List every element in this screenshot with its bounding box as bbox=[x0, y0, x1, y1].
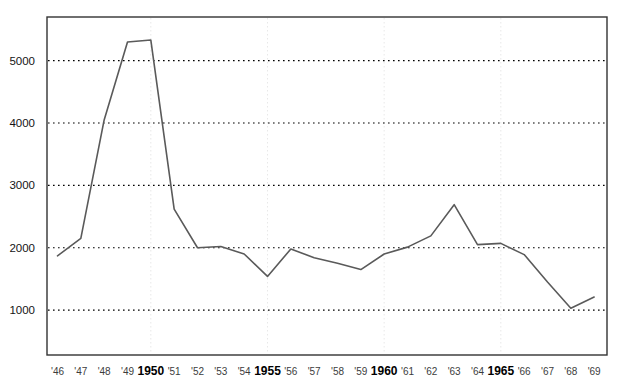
x-tick-1951: '51 bbox=[168, 366, 181, 377]
plot-background bbox=[47, 17, 607, 355]
x-tick-1963: '63 bbox=[448, 366, 461, 377]
x-tick-1950: 1950 bbox=[137, 364, 164, 378]
x-tick-1961: '61 bbox=[401, 366, 414, 377]
x-tick-1953: '53 bbox=[214, 366, 227, 377]
y-tick-3000: 3000 bbox=[9, 179, 35, 191]
x-tick-1967: '67 bbox=[541, 366, 554, 377]
x-tick-1966: '66 bbox=[518, 366, 531, 377]
x-tick-1946: '46 bbox=[51, 366, 64, 377]
x-tick-1952: '52 bbox=[191, 366, 204, 377]
y-tick-5000: 5000 bbox=[9, 55, 35, 67]
x-tick-1968: '68 bbox=[564, 366, 577, 377]
x-tick-1947: '47 bbox=[74, 366, 87, 377]
y-tick-4000: 4000 bbox=[9, 117, 35, 129]
x-tick-1959: '59 bbox=[354, 366, 367, 377]
x-axis-tick-labels: '46'47'48'491950'51'52'53'541955'56'57'5… bbox=[51, 364, 601, 378]
x-tick-1957: '57 bbox=[308, 366, 321, 377]
x-tick-1958: '58 bbox=[331, 366, 344, 377]
x-tick-1969: '69 bbox=[588, 366, 601, 377]
x-tick-1954: '54 bbox=[238, 366, 251, 377]
y-tick-2000: 2000 bbox=[9, 242, 35, 254]
x-tick-1955: 1955 bbox=[254, 364, 281, 378]
x-tick-1956: '56 bbox=[284, 366, 297, 377]
x-tick-1949: '49 bbox=[121, 366, 134, 377]
x-tick-1962: '62 bbox=[424, 366, 437, 377]
x-tick-1948: '48 bbox=[98, 366, 111, 377]
x-tick-1964: '64 bbox=[471, 366, 484, 377]
y-tick-1000: 1000 bbox=[9, 304, 35, 316]
chart-figure: 10002000300040005000 '46'47'48'491950'51… bbox=[0, 0, 622, 390]
y-axis-tick-labels: 10002000300040005000 bbox=[9, 55, 35, 316]
x-tick-1960: 1960 bbox=[371, 364, 398, 378]
x-tick-1965: 1965 bbox=[487, 364, 514, 378]
line-chart-plot: 10002000300040005000 '46'47'48'491950'51… bbox=[0, 0, 622, 390]
